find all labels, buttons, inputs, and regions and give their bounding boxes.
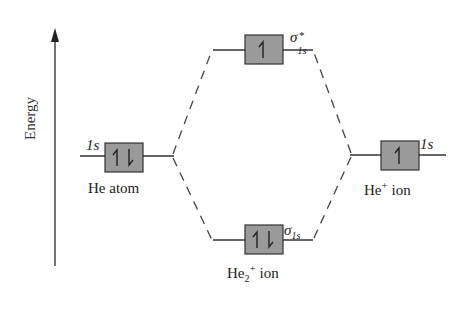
star-superscript: * (298, 30, 304, 41)
sigma-subscript: 1s (291, 230, 300, 241)
heplus-base: He (364, 182, 382, 198)
sigma-symbol: σ (290, 29, 297, 45)
he2-ion-label: He2+ ion (227, 263, 279, 284)
sigma-star-subscript: 1s (297, 46, 306, 56)
he-ion-orbital-label: 1s (420, 137, 433, 152)
sigma-star-label: σ * 1s (290, 30, 309, 45)
he2-base: He (227, 265, 245, 281)
energy-axis-label: Energy (22, 97, 39, 140)
he2-subscript: 2 (245, 273, 250, 284)
sigma-label: σ1s (284, 223, 300, 241)
he-atom-label: He atom (88, 181, 139, 196)
dashed-connectors (173, 50, 351, 240)
he2-suffix: ion (256, 265, 279, 281)
he-atom-orbital-label: 1s (86, 138, 99, 153)
he-ion-label: He+ ion (364, 180, 411, 198)
energy-axis-arrow (51, 28, 59, 266)
heplus-suffix: ion (388, 182, 411, 198)
